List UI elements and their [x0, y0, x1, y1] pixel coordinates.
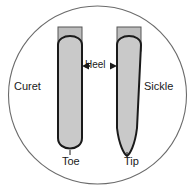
curet-label: Curet [14, 81, 41, 92]
magnifier-circle-outline [9, 6, 187, 184]
figure-canvas [0, 0, 195, 191]
curet-blade [58, 36, 82, 149]
sickle-label: Sickle [144, 81, 173, 92]
instrument-comparison-figure: Curet Sickle Heel Toe Tip [0, 0, 195, 191]
tip-label: Tip [124, 156, 139, 167]
heel-label: Heel [85, 60, 106, 70]
curet-instrument [58, 27, 82, 149]
toe-label: Toe [62, 156, 80, 167]
